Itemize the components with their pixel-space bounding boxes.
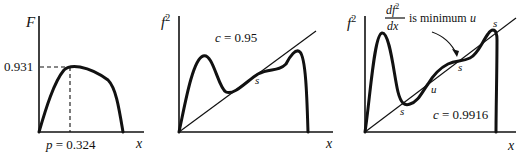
x-axis-label: x [135,136,143,151]
annotation-variable: u [470,11,476,25]
fraction-denominator: dx [387,19,399,33]
fraction-numerator: df2 [386,2,399,17]
arrow-head-icon [452,49,459,57]
c-value-label: c = 0.9916 [433,107,489,122]
tangent-point-label: s [255,74,259,86]
derivative-annotation: df2 dx is minimum u [385,2,476,33]
panel-3: f2 x df2 dx is minimum u s u s s c = 0.9… [347,2,516,153]
peak-position-label: p = 0.324 [45,137,96,152]
point-label-s1: s [400,105,404,117]
c-value-label: c = 0.95 [215,30,257,45]
point-label-s3: s [493,17,497,29]
y-axis-label: f2 [161,12,170,30]
f2-curve [179,51,308,132]
y-axis-label: f2 [347,13,356,31]
x-axis-label: x [507,138,515,153]
F-curve [39,66,123,132]
y-axis-label: F [25,14,36,30]
x-axis-label: x [325,136,333,151]
panel-1: F x 0.931 p = 0.324 [4,14,144,152]
annotation-text: is minimum [409,11,467,25]
figure-canvas: F x 0.931 p = 0.324 f2 x c = 0.95 s f2 x… [0,0,521,154]
point-label-s2: s [458,61,462,73]
panel-2: f2 x c = 0.95 s [161,12,333,151]
annotation-arrow [432,32,457,55]
point-label-u: u [431,83,437,95]
peak-position-text: = 0.324 [53,137,97,152]
peak-value-label: 0.931 [4,59,33,74]
